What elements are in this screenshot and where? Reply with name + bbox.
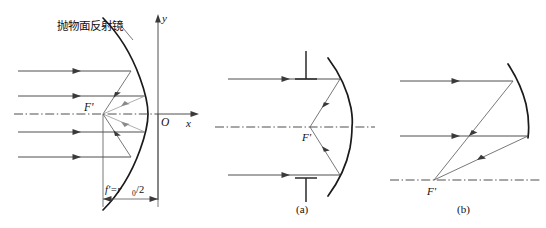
focal-length-label-group: f'=r 0 /2 xyxy=(105,184,144,198)
reflected-ray-a-bottom-arrow-icon xyxy=(322,146,330,152)
reflected-ray-b-bottom-arrow-icon xyxy=(477,155,486,160)
optics-figure: 抛物面反射镜 F' O x y f'=r 0 /2 xyxy=(0,0,546,228)
reflected-ray-2-arrow-icon xyxy=(121,101,130,106)
reflected-ray-4-arrow-icon xyxy=(114,130,121,136)
parabolic-mirror-curve-b xyxy=(508,64,529,138)
reflected-ray-b-top-arrow-icon xyxy=(469,130,477,136)
focus-label-main: F' xyxy=(83,101,94,113)
origin-label-main: O xyxy=(161,116,170,128)
reflected-ray-a-top-arrow-icon xyxy=(322,102,330,108)
incoming-ray-1-arrow-icon xyxy=(73,68,82,74)
focal-length-tail: /2 xyxy=(136,184,144,195)
focal-dim-arrow-right-icon xyxy=(150,196,159,202)
reflected-ray-3-arrow-icon xyxy=(121,122,130,127)
x-axis-label-main: x xyxy=(185,117,191,129)
aperture-stop-top xyxy=(295,51,317,79)
mirror-label-main: 抛物面反射镜 xyxy=(57,19,124,33)
incoming-ray-3-arrow-icon xyxy=(73,129,82,135)
optics-diagram-canvas: 抛物面反射镜 F' O x y f'=r 0 /2 xyxy=(0,0,546,228)
y-axis-arrow-icon xyxy=(155,14,161,23)
aperture-stop-bottom xyxy=(295,178,317,202)
focal-length-label: f'=r xyxy=(105,184,122,195)
incoming-ray-2-arrow-icon xyxy=(73,93,82,99)
x-axis-arrow-icon xyxy=(191,111,200,117)
incoming-ray-a-top-arrow-icon xyxy=(282,76,291,82)
focus-label-a: F' xyxy=(301,131,312,143)
diagram-a: F' (a) xyxy=(215,51,375,216)
caption-b: (b) xyxy=(457,203,470,216)
diagram-main: 抛物面反射镜 F' O x y f'=r 0 /2 xyxy=(14,12,199,210)
reflected-ray-b-top xyxy=(434,81,513,180)
incoming-ray-b-top-arrow-icon xyxy=(452,78,461,84)
incoming-ray-4-arrow-icon xyxy=(73,154,82,160)
reflected-ray-1-arrow-icon xyxy=(114,92,121,98)
incoming-ray-a-bottom-arrow-icon xyxy=(282,172,291,178)
incoming-ray-b-bottom-arrow-icon xyxy=(452,133,461,139)
diagram-b: F' (b) xyxy=(390,64,540,216)
y-axis-label-main: y xyxy=(161,12,167,24)
caption-a: (a) xyxy=(296,203,309,216)
focus-label-b: F' xyxy=(426,185,437,197)
focal-dim-arrow-left-icon xyxy=(103,196,112,202)
